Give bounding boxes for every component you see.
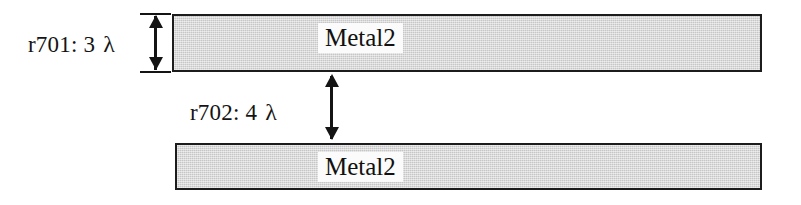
- dimension-label-r702-value: 4: [246, 100, 258, 125]
- diagram-canvas: Metal2 Metal2 r701: 3 λ r702: 4 λ: [0, 0, 801, 205]
- dimension-label-r701-value: 3: [84, 32, 96, 57]
- arrow-up-icon: [149, 15, 163, 28]
- dimension-label-r702: r702: 4 λ: [190, 99, 277, 126]
- metal2-label-bottom: Metal2: [318, 152, 403, 182]
- dimension-label-r702-rule: r702:: [190, 100, 240, 125]
- dimension-label-r701-rule: r701:: [28, 32, 78, 57]
- metal2-label-top: Metal2: [318, 23, 403, 53]
- lambda-symbol-r702: λ: [263, 99, 277, 125]
- lambda-symbol-r701: λ: [101, 31, 115, 57]
- arrow-down-icon: [149, 57, 163, 70]
- extension-line-bottom: [140, 71, 171, 73]
- arrow-up-icon: [325, 74, 339, 87]
- dimension-label-r701: r701: 3 λ: [28, 31, 115, 58]
- metal2-bar-bottom: [175, 143, 762, 190]
- metal2-bar-top: [172, 14, 762, 72]
- arrow-down-icon: [325, 127, 339, 140]
